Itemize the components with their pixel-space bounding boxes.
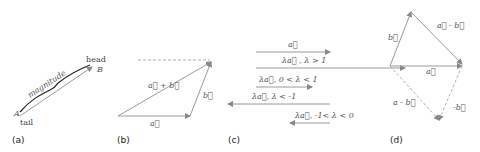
- panel-d: b⃗ a⃗ - b⃗ a⃗ a - b⃗ -b⃗ (d): [388, 12, 466, 145]
- b-label: b⃗: [203, 91, 213, 100]
- point-a-label: A: [13, 109, 20, 118]
- head-label: head: [86, 55, 106, 64]
- a-label: a⃗: [150, 119, 160, 128]
- row-label-gt1: λa⃗ , λ > 1: [281, 56, 326, 65]
- caption-d: (d): [390, 135, 403, 145]
- point-b-label: B: [96, 65, 103, 74]
- vector-b: [190, 62, 211, 116]
- panel-b: a⃗ + b⃗ b⃗ a⃗ (b): [117, 60, 213, 145]
- magnitude-label: magnitude: [26, 68, 68, 99]
- row-label-a: a⃗: [288, 40, 298, 49]
- row-label-neg1-0: λa⃗, -1< λ < 0: [294, 111, 354, 120]
- panel-a: magnitude head B A tail (a): [12, 55, 106, 145]
- caption-b: (b): [117, 135, 130, 145]
- d-a-label: a⃗: [426, 67, 436, 76]
- row-label-0-1: λa⃗, 0 < λ < 1: [258, 75, 318, 84]
- tail-label: tail: [20, 118, 34, 127]
- d-neg-b-label: -b⃗: [453, 103, 466, 112]
- row-label-lt-neg1: λa⃗, λ < -1: [251, 92, 296, 101]
- d-diff-label: a⃗ - b⃗: [437, 21, 464, 30]
- sum-label: a⃗ + b⃗: [148, 81, 179, 90]
- vector-diagram: magnitude head B A tail (a) a⃗ + b⃗ b⃗ a…: [0, 0, 480, 152]
- caption-c: (c): [228, 135, 240, 145]
- vector-a-minus-b: [411, 12, 462, 64]
- caption-a: (a): [12, 135, 25, 145]
- d-diff-dashed-label: a - b⃗: [393, 98, 416, 107]
- panel-c: a⃗ λa⃗ , λ > 1 λa⃗, 0 < λ < 1 λa⃗, λ < -…: [228, 40, 405, 145]
- d-b-label: b⃗: [388, 33, 398, 42]
